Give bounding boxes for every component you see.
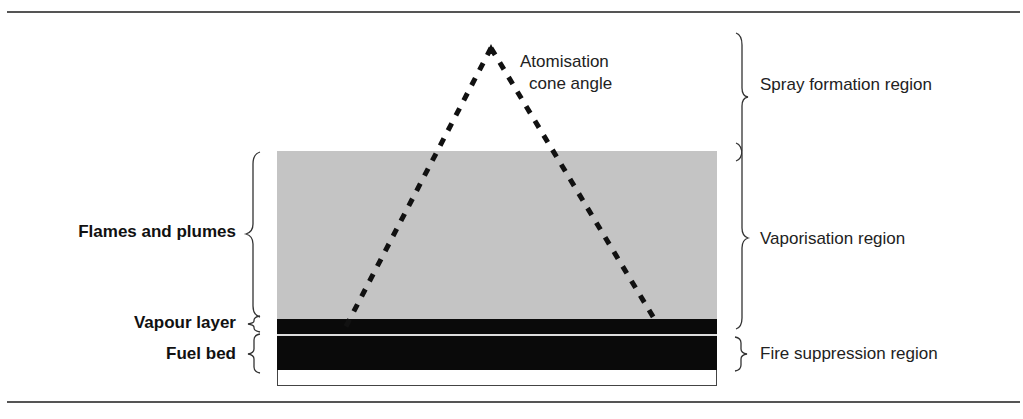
fuel-brace <box>248 334 260 373</box>
cone-angle-label-line1: Atomisation <box>520 52 609 72</box>
spray-brace <box>736 33 748 161</box>
vapour-brace <box>248 316 260 332</box>
flames-brace <box>246 152 260 317</box>
fire-suppression-label: Fire suppression region <box>760 344 938 364</box>
cone-angle-label-line2: cone angle <box>529 74 612 94</box>
vaporisation-label: Vaporisation region <box>760 229 905 249</box>
flames-plumes-label: Flames and plumes <box>78 222 236 242</box>
vaporisation-brace <box>736 143 748 329</box>
fire-suppression-brace <box>735 337 747 371</box>
fuel-bed-label: Fuel bed <box>166 344 236 364</box>
vapour-layer-label: Vapour layer <box>134 313 236 333</box>
spray-formation-label: Spray formation region <box>760 75 932 95</box>
